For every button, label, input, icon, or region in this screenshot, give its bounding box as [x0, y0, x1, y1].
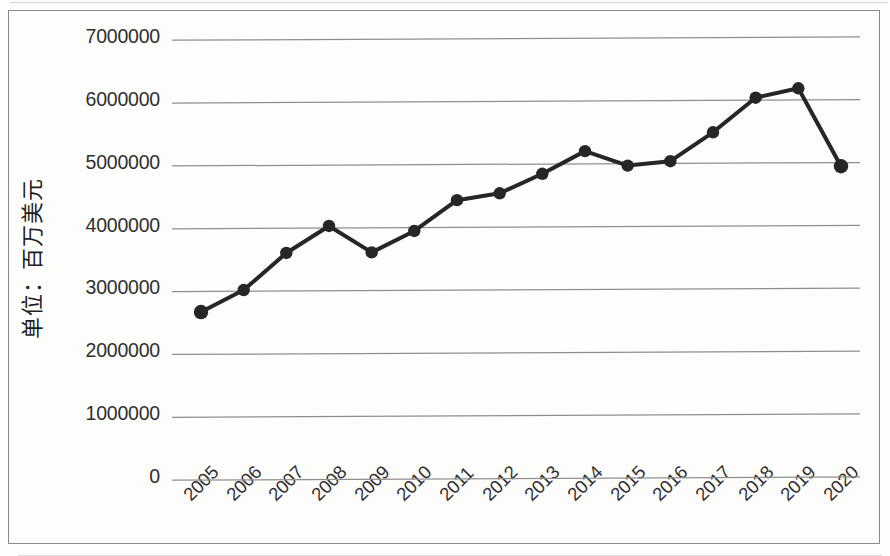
gridline	[172, 37, 860, 40]
data-point-marker	[664, 155, 676, 167]
chart-figure: 单位：百万美元 70000006000000500000040000003000…	[0, 0, 890, 556]
data-point-marker	[194, 305, 208, 319]
series-markers	[194, 82, 848, 319]
gridline	[172, 414, 860, 417]
data-point-marker	[834, 159, 848, 173]
data-point-marker	[707, 126, 719, 138]
gridline	[172, 351, 860, 354]
data-point-marker	[323, 220, 335, 232]
data-point-marker	[621, 159, 633, 171]
gridline	[172, 288, 860, 291]
series-polyline	[201, 88, 841, 312]
data-point-marker	[792, 82, 804, 94]
plot-area	[0, 0, 890, 556]
data-point-marker	[408, 225, 420, 237]
data-point-marker	[451, 194, 463, 206]
data-point-marker	[493, 187, 505, 199]
data-point-marker	[749, 92, 761, 104]
data-series-line	[194, 82, 848, 319]
data-point-marker	[365, 246, 377, 258]
data-point-marker	[280, 247, 292, 259]
data-point-marker	[536, 168, 548, 180]
data-point-marker	[579, 145, 591, 157]
data-point-marker	[237, 284, 249, 296]
gridline	[172, 477, 860, 480]
gridline	[172, 163, 860, 166]
gridline	[172, 225, 860, 228]
